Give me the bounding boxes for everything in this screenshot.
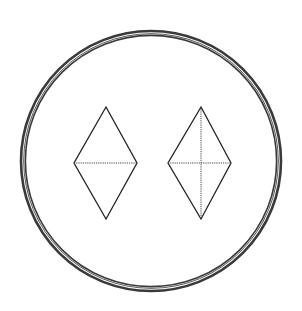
right-rhombus bbox=[168, 107, 231, 219]
triple-circle-border bbox=[21, 31, 281, 291]
left-rhombus bbox=[74, 107, 137, 219]
ring-line-2 bbox=[25, 35, 276, 286]
diagram-canvas bbox=[0, 0, 302, 311]
ring-line-0 bbox=[21, 31, 281, 291]
rhombus-shapes bbox=[74, 107, 231, 219]
